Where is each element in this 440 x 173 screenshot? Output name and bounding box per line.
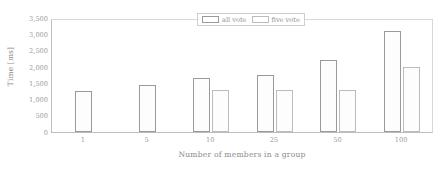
y-axis-tick-label: 0 xyxy=(44,130,48,137)
y-axis-tick-label: 1,000 xyxy=(29,97,48,104)
legend-entry: five vote xyxy=(252,16,300,24)
legend-swatch-icon xyxy=(252,16,269,23)
x-axis-tick-label: 25 xyxy=(270,136,278,144)
bar-group xyxy=(370,20,434,132)
x-axis-tick-label: 10 xyxy=(206,136,214,144)
bar xyxy=(276,90,293,132)
bar xyxy=(212,90,229,132)
x-axis-tick-label: 1 xyxy=(81,136,85,144)
bar-group xyxy=(243,20,307,132)
bar-group xyxy=(179,20,243,132)
y-axis-tick-label: 1,500 xyxy=(29,81,48,88)
y-axis-title-label: Time [ms] xyxy=(7,47,16,86)
y-axis-tick-label: 500 xyxy=(35,113,48,120)
bar xyxy=(257,75,274,132)
y-axis-tick-labels: 05001,0001,5002,0002,5003,0003,500 xyxy=(18,0,48,145)
y-axis-tick-label: 2,000 xyxy=(29,65,48,72)
bar-chart: Time [ms] 05001,0001,5002,0002,5003,0003… xyxy=(0,0,440,173)
bar xyxy=(384,31,401,132)
bar-group xyxy=(307,20,371,132)
x-axis-tick-label: 50 xyxy=(333,136,341,144)
chart-legend: all votefive vote xyxy=(197,13,305,26)
legend-swatch-icon xyxy=(202,16,219,23)
bar xyxy=(339,90,356,132)
plot-area xyxy=(51,19,433,133)
y-axis-tick-label: 3,500 xyxy=(29,16,48,23)
legend-entry: all vote xyxy=(202,16,247,24)
bar xyxy=(403,67,420,132)
legend-label: five vote xyxy=(272,16,300,24)
x-axis-tick-label: 100 xyxy=(395,136,408,144)
bar xyxy=(139,85,156,132)
legend-label: all vote xyxy=(222,16,247,24)
bars-layer xyxy=(52,20,432,132)
x-axis-tick-label: 5 xyxy=(144,136,148,144)
bar-group xyxy=(52,20,116,132)
bar xyxy=(193,78,210,132)
x-axis-title: Number of members in a group xyxy=(51,150,433,159)
y-axis-title: Time [ms] xyxy=(4,0,18,133)
y-axis-tick-label: 2,500 xyxy=(29,48,48,55)
x-axis-tick-labels: 15102550100 xyxy=(51,136,433,148)
bar-group xyxy=(116,20,180,132)
bar xyxy=(320,60,337,132)
bar xyxy=(75,91,92,132)
y-axis-tick-label: 3,000 xyxy=(29,32,48,39)
